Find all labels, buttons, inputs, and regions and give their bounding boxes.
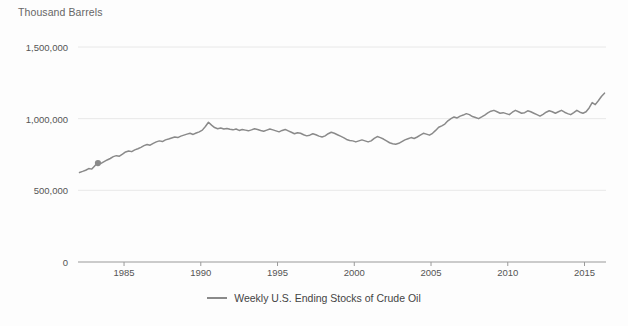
series-point-marker <box>95 160 101 166</box>
legend-label: Weekly U.S. Ending Stocks of Crude Oil <box>234 292 421 304</box>
chart-legend: Weekly U.S. Ending Stocks of Crude Oil <box>0 292 628 304</box>
plot-area <box>0 0 628 326</box>
legend-line-swatch <box>207 297 227 299</box>
crude-oil-stocks-chart: Thousand Barrels 0500,0001,000,0001,500,… <box>0 0 628 326</box>
x-axis-tick-marks <box>124 262 584 266</box>
gridlines <box>78 47 606 190</box>
series-line-crude-oil-stocks <box>80 93 605 172</box>
